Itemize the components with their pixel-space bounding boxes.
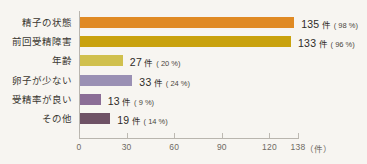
value-label: 133 件( 96 %)	[298, 35, 355, 51]
x-axis-tick-mark	[174, 133, 175, 138]
x-axis-tick-mark	[222, 133, 223, 138]
value-label: 33 件( 24 %)	[139, 74, 190, 90]
value-unit: 件	[120, 97, 131, 107]
value-percent: ( 14 %)	[144, 117, 168, 126]
bar	[80, 17, 294, 28]
category-label: 卵子が少ない	[12, 74, 72, 87]
bar-row: その他19 件( 14 %)	[0, 110, 367, 129]
value-percent: ( 20 %)	[156, 59, 180, 68]
category-label: その他	[42, 112, 72, 125]
horizontal-bar-chart: 精子の状態135 件( 98 %)前回受精障害133 件( 96 %)年齢27 …	[0, 0, 367, 164]
value-count: 33	[139, 76, 151, 88]
value-count: 13	[108, 95, 120, 107]
bar-row: 卵子が少ない33 件( 24 %)	[0, 72, 367, 91]
category-label: 年齢	[52, 54, 72, 67]
bar	[80, 94, 101, 105]
value-unit: 件	[316, 39, 327, 49]
category-label: 精子の状態	[22, 16, 72, 29]
x-axis-tick-mark	[79, 133, 80, 138]
value-unit: 件	[319, 20, 330, 30]
bar	[80, 55, 123, 66]
bar-row: 年齢27 件( 20 %)	[0, 52, 367, 71]
bar	[80, 113, 110, 124]
value-count: 27	[130, 56, 142, 68]
category-label: 前回受精障害	[12, 35, 72, 48]
x-axis-tick-label: 138	[291, 142, 306, 152]
x-axis-tick-label: 0	[77, 142, 82, 152]
value-count: 19	[117, 114, 129, 126]
value-percent: ( 24 %)	[166, 79, 190, 88]
x-axis-unit-label: （件）	[305, 142, 332, 154]
bar	[80, 75, 132, 86]
x-axis-tick-label: 60	[169, 142, 179, 152]
x-axis-tick-label: 120	[262, 142, 277, 152]
value-count: 133	[298, 37, 316, 49]
value-percent: ( 96 %)	[331, 40, 355, 49]
bar-row: 受精率が良い13 件( 9 %)	[0, 91, 367, 110]
x-axis-tick-label: 30	[122, 142, 132, 152]
value-label: 135 件( 98 %)	[301, 16, 358, 32]
value-percent: ( 9 %)	[134, 98, 154, 107]
x-axis-tick-mark	[298, 133, 299, 138]
value-count: 135	[301, 18, 319, 30]
bar	[80, 36, 291, 47]
value-label: 19 件( 14 %)	[117, 112, 168, 128]
bar-row: 精子の状態135 件( 98 %)	[0, 14, 367, 33]
value-unit: 件	[129, 116, 140, 126]
bar-row: 前回受精障害133 件( 96 %)	[0, 33, 367, 52]
value-label: 13 件( 9 %)	[108, 93, 154, 109]
value-label: 27 件( 20 %)	[130, 54, 181, 70]
value-unit: 件	[151, 78, 162, 88]
value-unit: 件	[142, 58, 153, 68]
x-axis-tick-mark	[269, 133, 270, 138]
x-axis-tick-mark	[127, 133, 128, 138]
category-label: 受精率が良い	[12, 93, 72, 106]
x-axis-tick-label: 90	[217, 142, 227, 152]
value-percent: ( 98 %)	[334, 21, 358, 30]
plot-area: 精子の状態135 件( 98 %)前回受精障害133 件( 96 %)年齢27 …	[0, 0, 367, 164]
x-axis-line	[79, 138, 299, 139]
